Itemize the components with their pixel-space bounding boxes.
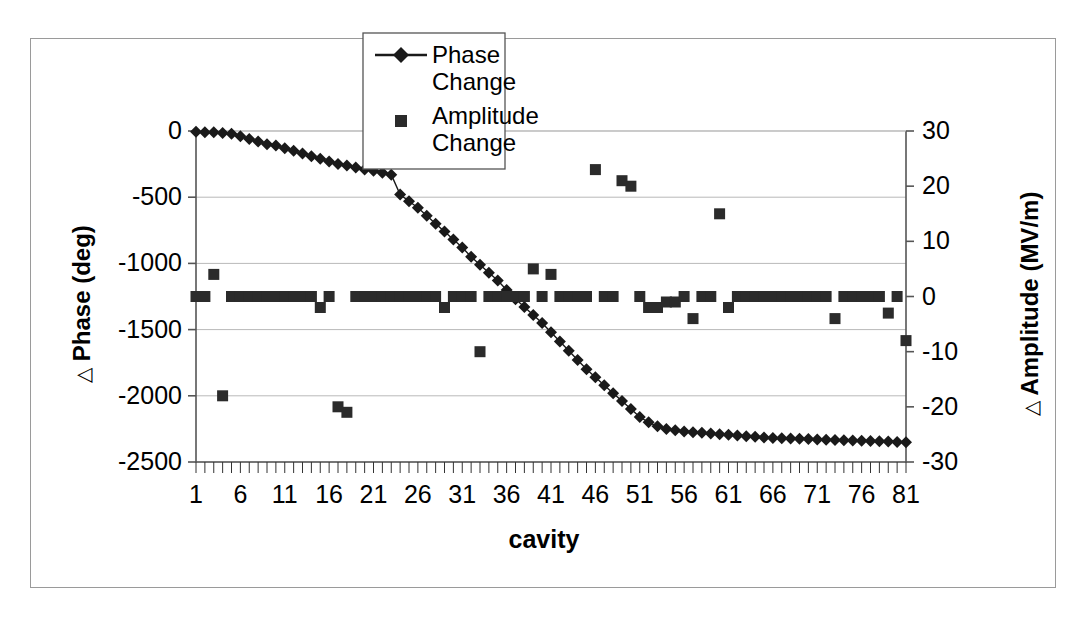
delta-symbol-left: △ xyxy=(72,368,94,383)
y-axis-right-tick-label: 20 xyxy=(922,173,950,198)
y-axis-left-tick-label: -500 xyxy=(132,184,182,209)
y-axis-right-tick-label: 30 xyxy=(922,118,950,143)
y-axis-right-tick-label: 10 xyxy=(922,228,950,253)
legend-label-amplitude-line1: Amplitude xyxy=(432,103,539,130)
y-axis-right-ticks xyxy=(906,131,914,462)
legend-label-phase-line2: Change xyxy=(432,69,516,96)
y-axis-left-tick-label: 0 xyxy=(168,118,182,143)
y-axis-left-tick-label: -2000 xyxy=(118,383,182,408)
y-axis-left-title: △ Phase (deg) xyxy=(68,174,96,434)
y-axis-right-tick-label: -20 xyxy=(922,394,958,419)
y-axis-right-tick-label: -30 xyxy=(922,449,958,474)
x-axis-ticks xyxy=(196,462,906,473)
y-axis-left-tick-label: -1000 xyxy=(118,250,182,275)
y-axis-right-tick-label: 0 xyxy=(922,284,936,309)
y-axis-right-tick-label: -10 xyxy=(922,339,958,364)
series-amplitude-change xyxy=(191,164,912,418)
x-axis-title: cavity xyxy=(0,525,1088,554)
y-axis-left-title-text: Phase (deg) xyxy=(68,225,95,361)
legend-entry-amplitude-change: Amplitude Change xyxy=(432,103,539,157)
y-axis-right-title-text: Amplitude (MV/m) xyxy=(1016,192,1043,396)
y-axis-left-tick-label: -2500 xyxy=(118,449,182,474)
y-axis-right-title: △ Amplitude (MV/m) xyxy=(1016,154,1044,454)
y-axis-left-tick-label: -1500 xyxy=(118,317,182,342)
series-phase-change xyxy=(190,126,912,448)
delta-symbol-right: △ xyxy=(1020,401,1042,416)
legend-entry-phase-change: Phase Change xyxy=(432,42,516,96)
legend-label-phase-line1: Phase xyxy=(432,42,516,69)
legend-label-amplitude-line2: Change xyxy=(432,130,539,157)
x-axis-tick-label: 81 xyxy=(876,482,936,507)
